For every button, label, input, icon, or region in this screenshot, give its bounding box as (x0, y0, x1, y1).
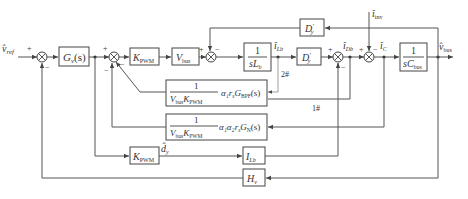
plus-sign: + (359, 45, 364, 54)
dy-signal-label: d̂y (161, 142, 169, 155)
minus-sign: − (120, 60, 125, 69)
notch-gain: α₁α₂rsGN(s) (219, 122, 260, 133)
path-2-label: 2# (281, 70, 289, 79)
bpf-num: 1 (194, 81, 199, 91)
Dy-forward-label: D′y (301, 51, 311, 64)
iC-signal-label: îC (380, 40, 388, 52)
bpf-gain: α₁rsGBPF(s) (221, 88, 260, 99)
minus-sign: − (104, 66, 109, 75)
minus-sign: − (215, 45, 220, 54)
notch-num: 1 (194, 115, 199, 125)
capacitor-num: 1 (411, 45, 416, 56)
inductor-num: 1 (255, 45, 260, 56)
plus-sign: + (328, 45, 333, 54)
minus-sign: − (341, 63, 346, 72)
control-block-diagram: v̂ref + − Gv(s) + − − KPWM Vbus + − 1 sL… (0, 0, 468, 199)
plus-sign: + (27, 44, 32, 53)
iLb-signal-label: îLb (274, 40, 283, 52)
iDb-signal-label: îDb (343, 40, 353, 52)
vref-label: v̂ref (2, 43, 15, 56)
plus-sign: + (103, 44, 108, 53)
plus-sign: + (199, 45, 204, 54)
vbus-label: v̂bus (439, 41, 453, 53)
minus-sign: − (373, 45, 378, 54)
Dy-feedback-label: D′y (304, 22, 314, 35)
path-1-label: 1# (312, 104, 320, 113)
minus-sign: − (45, 63, 50, 72)
iinv-label: îinv (372, 8, 382, 20)
Gv-label: Gv(s) (63, 51, 86, 65)
